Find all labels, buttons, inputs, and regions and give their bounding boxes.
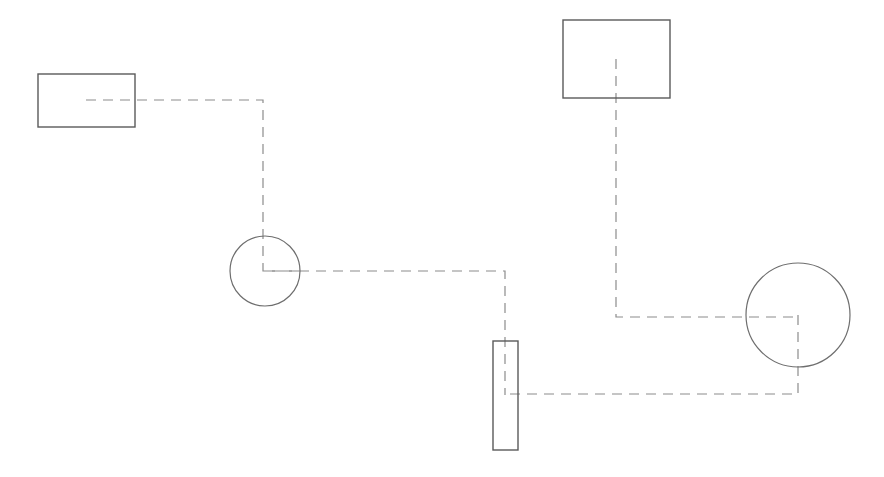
connector-rect-top-left-to-circle-left[interactable] — [86, 100, 300, 271]
diagram-svg — [0, 0, 884, 477]
node-layer — [38, 20, 850, 450]
connector-circle-left-to-rect-bottom-narrow[interactable] — [265, 271, 505, 395]
diagram-canvas — [0, 0, 884, 477]
connector-layer — [86, 59, 798, 395]
connector-circle-right-to-rect-bottom-narrow[interactable] — [505, 315, 798, 394]
